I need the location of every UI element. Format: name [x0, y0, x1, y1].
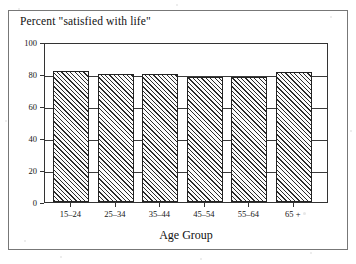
bar: [187, 77, 223, 202]
scan-speckle: [350, 130, 352, 132]
y-tick-mark-80: [40, 75, 44, 76]
x-tick-mark: [159, 203, 160, 207]
x-tick-mark: [293, 203, 294, 207]
scan-speckle: [303, 212, 306, 215]
scan-speckle: [176, 4, 178, 6]
x-tick-mark: [115, 203, 116, 207]
y-tick-label: 0: [33, 198, 37, 208]
y-tick-mark-100: [40, 43, 44, 44]
scan-speckle: [5, 120, 7, 122]
bars-layer: [45, 44, 327, 202]
bar: [231, 77, 267, 202]
scan-speckle: [330, 16, 332, 18]
x-tick-label: 25–34: [104, 209, 125, 219]
y-tick-mark-60: [40, 107, 44, 108]
scan-speckle: [200, 258, 202, 260]
x-tick-label: 55–64: [238, 209, 259, 219]
scan-speckle: [60, 256, 62, 258]
y-tick-label: 20: [29, 166, 38, 176]
bar: [276, 72, 312, 202]
plot-wrapper: 020406080100 15–2425–3435–4445–5455–6465…: [44, 43, 328, 203]
y-tick-label: 40: [29, 134, 38, 144]
x-tick-label: 45–54: [193, 209, 214, 219]
x-tick-label: 65 +: [285, 209, 300, 219]
y-tick-label: 100: [24, 38, 37, 48]
bar: [142, 74, 178, 202]
x-tick-mark: [204, 203, 205, 207]
y-tick-mark-0: [40, 203, 44, 204]
y-tick-label: 60: [29, 102, 38, 112]
figure-canvas: Percent "satisfied with life" 0204060801…: [0, 0, 356, 264]
x-tick-mark: [70, 203, 71, 207]
x-tick-mark: [248, 203, 249, 207]
bar: [98, 74, 134, 202]
y-tick-mark-20: [40, 171, 44, 172]
scan-speckle: [24, 240, 26, 242]
scan-speckle: [310, 252, 312, 254]
scan-speckle: [18, 8, 20, 10]
chart-title: Percent "satisfied with life": [20, 15, 151, 27]
y-tick-mark-40: [40, 139, 44, 140]
x-tick-label: 35–44: [149, 209, 170, 219]
x-tick-label: 15–24: [60, 209, 81, 219]
x-axis-title: Age Group: [44, 228, 328, 243]
plot-area: [44, 43, 328, 203]
bar: [53, 71, 89, 202]
y-tick-label: 80: [29, 70, 38, 80]
